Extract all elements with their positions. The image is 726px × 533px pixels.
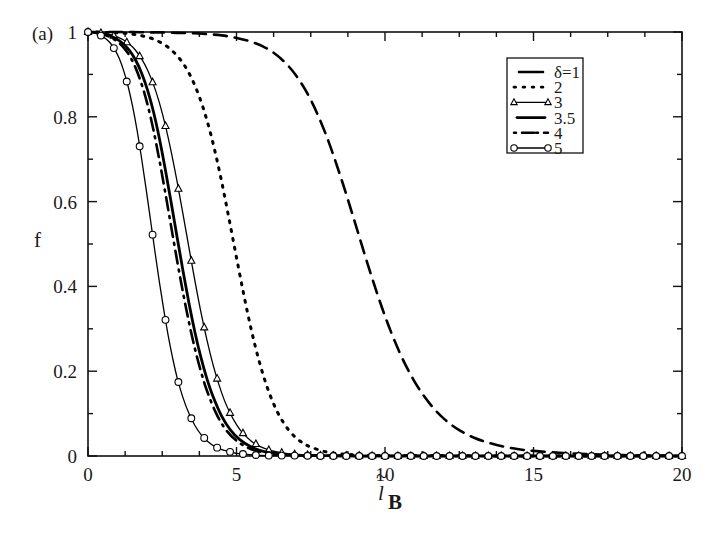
marker-circle <box>627 453 634 460</box>
marker-circle <box>175 379 182 386</box>
data-curves <box>84 28 685 459</box>
y-tick-labels: 00.20.40.60.81 <box>53 22 77 467</box>
curve-delta=3.5 <box>88 32 682 456</box>
marker-circle <box>537 453 544 460</box>
x-axis-label-subscript: B <box>388 490 402 514</box>
marker-circle <box>343 453 350 460</box>
y-tick-label: 0.8 <box>53 107 77 128</box>
marker-circle <box>446 453 453 460</box>
x-tick-label: 0 <box>83 464 93 485</box>
marker-circle <box>265 452 272 459</box>
marker-circle <box>317 453 324 460</box>
marker-circle <box>98 32 105 39</box>
plot-canvas: 05101520 00.20.40.60.81 (a) f l ~ B δ=12… <box>0 0 726 533</box>
marker-circle <box>679 453 686 460</box>
panel-label: (a) <box>32 23 53 45</box>
marker-circle <box>666 453 673 460</box>
y-tick-label: 1 <box>68 22 78 43</box>
marker-circle <box>227 448 234 455</box>
marker-circle <box>575 453 582 460</box>
marker-circle <box>330 453 337 460</box>
marker-triangle <box>149 78 156 84</box>
marker-circle <box>588 453 595 460</box>
marker-circle <box>614 453 621 460</box>
series-delta=3.5 <box>88 32 682 456</box>
marker-triangle <box>214 375 221 381</box>
figure-panel-a: 05101520 00.20.40.60.81 (a) f l ~ B δ=12… <box>0 0 726 533</box>
marker-triangle <box>162 122 169 128</box>
marker-circle <box>85 29 92 36</box>
legend-marker-circle <box>545 145 551 151</box>
marker-circle <box>601 453 608 460</box>
marker-triangle <box>201 323 208 329</box>
x-tick-label: 15 <box>524 464 543 485</box>
marker-triangle <box>227 409 234 415</box>
marker-circle <box>562 453 569 460</box>
marker-circle <box>395 453 402 460</box>
marker-circle <box>420 453 427 460</box>
marker-circle <box>278 452 285 459</box>
marker-circle <box>252 452 259 459</box>
marker-circle <box>459 453 466 460</box>
marker-circle <box>407 453 414 460</box>
marker-circle <box>149 231 156 238</box>
marker-circle <box>136 143 143 150</box>
marker-circle <box>162 316 169 323</box>
marker-circle <box>291 452 298 459</box>
x-tick-labels: 05101520 <box>83 464 691 485</box>
marker-circle <box>382 453 389 460</box>
marker-circle <box>214 444 221 451</box>
marker-circle <box>549 453 556 460</box>
marker-triangle <box>175 185 182 191</box>
marker-circle <box>240 451 247 458</box>
marker-circle <box>433 453 440 460</box>
marker-circle <box>485 453 492 460</box>
marker-circle <box>110 45 117 52</box>
marker-circle <box>369 453 376 460</box>
marker-circle <box>524 453 531 460</box>
legend[interactable]: δ=1233.545 <box>507 58 583 158</box>
y-tick-label: 0.2 <box>53 361 77 382</box>
marker-circle <box>356 453 363 460</box>
marker-circle <box>123 78 130 85</box>
marker-circle <box>201 435 208 442</box>
marker-circle <box>188 415 195 422</box>
legend-entry-label: 5 <box>554 139 563 158</box>
marker-triangle <box>188 257 195 263</box>
marker-circle <box>472 453 479 460</box>
x-tick-label: 20 <box>673 464 692 485</box>
y-tick-label: 0.6 <box>53 192 77 213</box>
x-tick-label: 5 <box>232 464 242 485</box>
x-axis-label-accent: ~ <box>376 464 387 488</box>
marker-circle <box>640 453 647 460</box>
marker-circle <box>511 453 518 460</box>
marker-circle <box>498 453 505 460</box>
legend-marker-circle <box>511 145 517 151</box>
y-axis-label: f <box>34 228 41 252</box>
y-tick-label: 0 <box>68 446 78 467</box>
marker-circle <box>304 452 311 459</box>
marker-circle <box>653 453 660 460</box>
y-tick-label: 0.4 <box>53 276 77 297</box>
